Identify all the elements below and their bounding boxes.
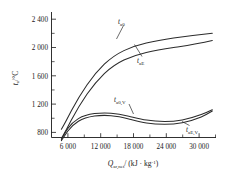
x-axis-title-close: ) — [156, 159, 159, 168]
svg-text:Qar,net/ (kJ · kg-1): Qar,net/ (kJ · kg-1) — [108, 159, 159, 170]
chart-figure: 2 400 2 000 1 600 1 200 800 6 000 12 000… — [0, 0, 230, 179]
y-axis-ticks — [52, 19, 57, 132]
x-tick-label: 18 000 — [124, 143, 144, 151]
curve-label-taEV: taE,V — [186, 126, 199, 136]
y-tick-label: 1 600 — [32, 73, 49, 81]
curve-label-ta0V: ta0,V — [114, 96, 126, 106]
x-tick-label: 30 000 — [189, 143, 209, 151]
x-tick-label: 24 000 — [156, 143, 176, 151]
leader-ta0V — [129, 104, 134, 114]
x-tick-label: 12 000 — [91, 143, 111, 151]
y-tick-label: 2 400 — [32, 16, 49, 24]
x-axis-title: Qar,net/ (kJ · kg-1) — [108, 159, 159, 170]
x-tick-label: 6 000 — [60, 143, 77, 151]
y-axis-title: ta/°C — [11, 71, 21, 86]
x-tick-labels: 6 000 12 000 18 000 24 000 30 000 — [60, 143, 210, 151]
axis-frame — [52, 12, 217, 138]
curve-label-taE: taE — [137, 57, 144, 66]
y-tick-label: 1 200 — [32, 101, 49, 109]
chart-canvas: 2 400 2 000 1 600 1 200 800 6 000 12 000… — [0, 0, 230, 179]
x-axis-title-sub: ar,net — [113, 164, 125, 170]
y-tick-label: 800 — [37, 129, 48, 137]
curve-label-ta0: ta0 — [118, 18, 125, 27]
y-tick-labels: 2 400 2 000 1 600 1 200 800 — [32, 16, 49, 137]
svg-text:ta/°C: ta/°C — [11, 71, 21, 86]
x-axis-title-unit: / (kJ · kg — [124, 159, 151, 168]
y-tick-label: 2 000 — [32, 44, 49, 52]
leader-ta0 — [117, 26, 124, 40]
y-axis-title-unit: /°C — [11, 71, 20, 81]
data-curves — [61, 33, 212, 140]
label-leaders — [117, 26, 190, 126]
